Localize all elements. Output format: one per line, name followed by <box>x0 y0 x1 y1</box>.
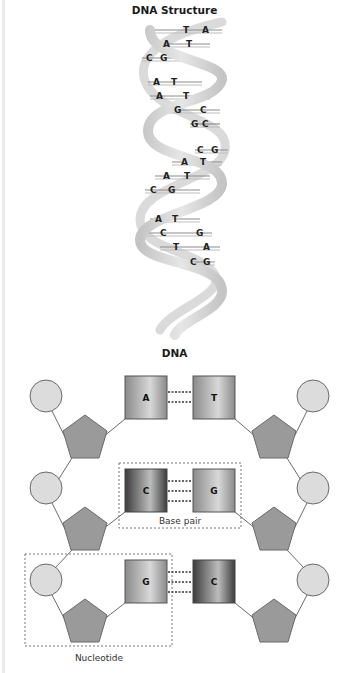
helix-base-letter: G <box>174 105 181 115</box>
schematic-title: DNA <box>0 347 349 359</box>
helix-base-letter: C <box>200 105 207 115</box>
helix-base-letter: C <box>160 228 167 238</box>
base-t <box>193 376 235 419</box>
base-letter: C <box>211 577 218 587</box>
nucleotide-box <box>25 554 172 646</box>
helix-base-letter: C <box>202 119 209 129</box>
helix-base-letter: T <box>184 171 191 181</box>
base-a <box>125 376 167 419</box>
sugar-pentagon <box>252 415 296 458</box>
helix-base-letter: A <box>163 39 170 49</box>
sugar-pentagon <box>252 507 296 550</box>
helix-base-letter: T <box>171 77 178 87</box>
helix-base-letter: G <box>211 145 218 155</box>
helix-base-letter: C <box>150 185 157 195</box>
helix-base-letter: A <box>156 91 163 101</box>
phosphate-circle <box>297 472 329 504</box>
helix-base-letter: T <box>173 242 180 252</box>
helix-base-letter: A <box>181 157 188 167</box>
phosphate-circle <box>30 380 62 412</box>
phosphate-circle <box>297 380 329 412</box>
helix-base-letter: A <box>163 171 170 181</box>
phosphate-circle <box>30 564 62 596</box>
helix-base-letter: T <box>200 157 207 167</box>
helix-base-letter: A <box>203 242 210 252</box>
helix-base-letter: A <box>155 214 162 224</box>
double-helix-illustration: TAATCGATATGCGCCGATATCGATCGTACG <box>0 0 349 340</box>
helix-base-letter: C <box>146 53 153 63</box>
nucleotide-label: Nucleotide <box>75 653 124 663</box>
base-letter: T <box>211 393 218 403</box>
sugar-pentagon <box>63 599 107 642</box>
base-g <box>125 560 167 603</box>
base-c <box>125 469 167 512</box>
helix-base-letter: T <box>172 214 179 224</box>
phosphate-circle <box>297 564 329 596</box>
phosphate-circle <box>30 472 62 504</box>
helix-base-letter: T <box>183 25 190 35</box>
base-letter: G <box>210 486 217 496</box>
base-g <box>193 469 235 512</box>
hydrogen-bonds <box>168 392 192 592</box>
helix-base-letter: C <box>190 257 197 267</box>
base-pair-label: Base pair <box>159 516 202 526</box>
base-c <box>193 560 235 603</box>
helix-base-letter: G <box>160 53 167 63</box>
helix-base-letter: G <box>191 119 198 129</box>
helix-base-letter: G <box>168 185 175 195</box>
helix-base-letter: C <box>197 145 204 155</box>
sugar-pentagon <box>63 507 107 550</box>
sugar-pentagon <box>252 599 296 642</box>
helix-base-letter: T <box>183 91 190 101</box>
base-letter: G <box>142 577 149 587</box>
base-pair-box <box>119 463 241 528</box>
helix-base-letter: T <box>186 39 193 49</box>
helix-base-letter: G <box>196 228 203 238</box>
sugar-pentagon <box>63 415 107 458</box>
helix-base-letter: A <box>202 25 209 35</box>
base-letter: C <box>143 486 150 496</box>
helix-base-letter: G <box>203 257 210 267</box>
helix-base-letter: A <box>153 77 160 87</box>
base-letter: A <box>143 393 150 403</box>
